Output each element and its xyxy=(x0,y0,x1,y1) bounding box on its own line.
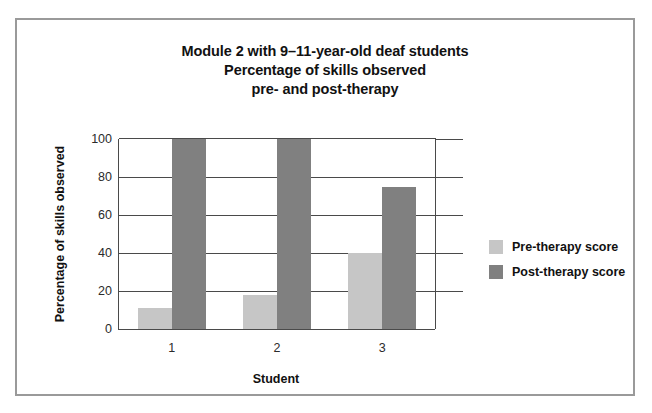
chart-title-line-1: Module 2 with 9–11-year-old deaf student… xyxy=(17,42,633,61)
legend-item: Post-therapy score xyxy=(489,259,625,284)
plot-frame-right xyxy=(435,138,436,329)
bar-post-therapy-score-student-2 xyxy=(277,139,311,329)
legend-swatch-icon xyxy=(489,240,503,254)
legend-item: Pre-therapy score xyxy=(489,234,625,259)
y-axis-title-text: Percentage of skills observed xyxy=(53,146,67,322)
chart-title: Module 2 with 9–11-year-old deaf student… xyxy=(17,42,633,99)
legend-swatch-icon xyxy=(489,265,503,279)
y-tick-stub xyxy=(435,253,463,254)
bar-pre-therapy-score-student-3 xyxy=(348,253,382,329)
x-axis-title: Student xyxy=(118,372,434,386)
x-tick-label-3: 3 xyxy=(379,341,386,355)
y-tick-stub xyxy=(435,139,463,140)
y-tick-label: 80 xyxy=(98,170,112,184)
chart-legend: Pre-therapy scorePost-therapy score xyxy=(489,234,625,284)
bar-post-therapy-score-student-3 xyxy=(382,187,416,330)
y-tick-stub xyxy=(435,177,463,178)
y-tick-label: 20 xyxy=(98,284,112,298)
bar-post-therapy-score-student-1 xyxy=(172,139,206,329)
bar-pre-therapy-score-student-2 xyxy=(243,295,277,329)
y-tick-stub xyxy=(435,291,463,292)
legend-label: Pre-therapy score xyxy=(512,240,618,254)
y-tick-label: 0 xyxy=(105,322,112,336)
chart-title-line-3: pre- and post-therapy xyxy=(17,80,633,99)
y-tick-label: 100 xyxy=(91,132,112,146)
bar-pre-therapy-score-student-1 xyxy=(138,308,172,329)
legend-label: Post-therapy score xyxy=(512,265,625,279)
y-tick-stub xyxy=(435,215,463,216)
x-tick-label-2: 2 xyxy=(274,341,281,355)
plot-area: 020406080100 123 xyxy=(118,139,435,330)
chart-title-line-2: Percentage of skills observed xyxy=(17,61,633,80)
chart-figure: Module 2 with 9–11-year-old deaf student… xyxy=(15,18,635,396)
y-tick-label: 40 xyxy=(98,246,112,260)
x-tick-label-1: 1 xyxy=(168,341,175,355)
y-axis-title: Percentage of skills observed xyxy=(51,139,69,329)
y-tick-label: 60 xyxy=(98,208,112,222)
